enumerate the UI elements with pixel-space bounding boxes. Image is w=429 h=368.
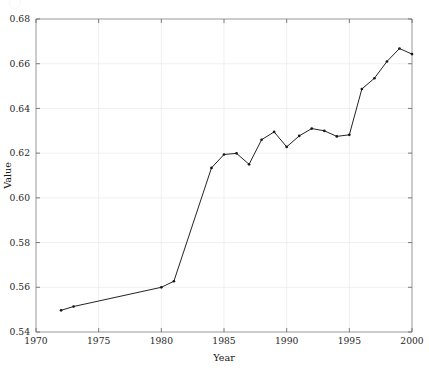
x-tick-label: 1980 xyxy=(150,335,174,346)
data-point xyxy=(386,60,389,63)
data-point xyxy=(60,309,63,312)
data-point xyxy=(361,88,364,91)
gridlines-group xyxy=(36,19,412,332)
data-point xyxy=(260,138,263,141)
y-axis-title: Value xyxy=(2,162,13,190)
y-tick-label: 0.54 xyxy=(10,326,31,337)
data-point xyxy=(72,305,75,308)
x-tick-label: 1990 xyxy=(275,335,299,346)
data-point xyxy=(160,286,163,289)
data-series-markers-group xyxy=(60,47,414,312)
data-point xyxy=(210,167,213,170)
data-point xyxy=(298,135,301,138)
data-point xyxy=(235,152,238,155)
y-tick-label: 0.58 xyxy=(10,237,31,248)
line-chart: 1970197519801985199019952000 0.540.560.5… xyxy=(0,0,429,368)
x-axis-title: Year xyxy=(212,352,235,363)
x-axis-tick-labels-group: 1970197519801985199019952000 xyxy=(24,335,424,346)
data-point xyxy=(173,280,176,283)
data-point xyxy=(348,133,351,136)
y-tick-label: 0.56 xyxy=(10,281,31,292)
data-point xyxy=(273,131,276,134)
chart-figure: 1970197519801985199019952000 0.540.560.5… xyxy=(0,0,429,368)
x-tick-label: 1995 xyxy=(338,335,362,346)
x-tick-label: 2000 xyxy=(400,335,424,346)
data-point xyxy=(223,153,226,156)
data-point xyxy=(411,53,414,56)
data-series-line xyxy=(61,49,412,311)
data-point xyxy=(373,77,376,80)
data-point xyxy=(323,129,326,132)
data-point xyxy=(398,47,401,50)
data-point xyxy=(285,146,288,149)
data-point xyxy=(310,127,313,130)
y-tick-label: 0.64 xyxy=(10,103,31,114)
x-tick-label: 1975 xyxy=(87,335,111,346)
data-point xyxy=(248,163,251,166)
y-tick-label: 0.60 xyxy=(10,192,31,203)
x-tick-label: 1985 xyxy=(212,335,236,346)
y-tick-label: 0.68 xyxy=(10,13,31,24)
y-tick-label: 0.62 xyxy=(10,147,30,158)
data-point xyxy=(335,135,338,138)
y-tick-label: 0.66 xyxy=(10,58,31,69)
